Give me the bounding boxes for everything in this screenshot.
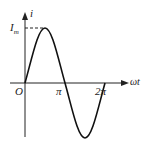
y-axis-arrow-icon: [22, 12, 28, 20]
pi-label: π: [56, 86, 62, 97]
peak-label-sub: m: [14, 28, 19, 36]
origin-label: O: [15, 86, 23, 97]
y-axis-label: i: [30, 8, 33, 19]
two-pi-label: 2π: [95, 86, 106, 97]
x-axis-arrow-icon: [121, 80, 129, 86]
peak-label: Im: [10, 22, 19, 36]
x-axis-label: ωt: [130, 77, 140, 87]
sine-diagram: [0, 0, 142, 144]
